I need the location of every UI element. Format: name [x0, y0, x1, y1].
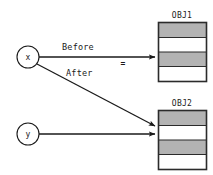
node-y-label: y [26, 130, 31, 139]
obj1-cell-2 [159, 38, 206, 53]
after-edge-arrow [37, 64, 155, 126]
node-x-label: x [26, 53, 31, 62]
pointer-diagram-canvas: OBJ1 OBJ2 Before [0, 0, 213, 175]
obj1-cell-4 [159, 67, 206, 82]
node-y: y [17, 123, 39, 145]
equals-annotation: = [121, 59, 126, 68]
obj1-cell-1 [159, 23, 206, 38]
object-box-obj2: OBJ2 [159, 99, 207, 170]
obj2-cell-2 [159, 126, 206, 141]
obj2-cell-1 [159, 111, 206, 126]
obj2-title: OBJ2 [172, 99, 192, 108]
obj2-cell-3 [159, 140, 206, 155]
obj1-title: OBJ1 [172, 11, 192, 20]
obj1-cell-3 [159, 52, 206, 67]
diagram-svg: OBJ1 OBJ2 Before [0, 0, 213, 175]
before-edge-label: Before [62, 42, 94, 52]
object-box-obj1: OBJ1 [159, 11, 207, 82]
node-x: x [17, 46, 39, 68]
obj2-cell-4 [159, 155, 206, 170]
after-edge-label: After [66, 68, 93, 78]
